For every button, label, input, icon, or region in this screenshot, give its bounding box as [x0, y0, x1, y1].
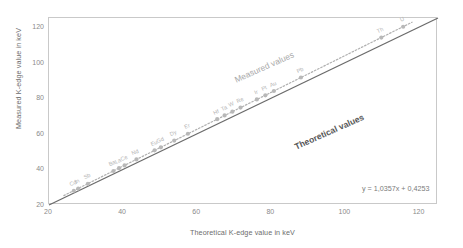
- chart-figure: Measured K-edge value in keV 20406080100…: [0, 0, 463, 248]
- data-point-Ta: [223, 113, 227, 117]
- data-point-Er: [186, 132, 190, 136]
- data-point-Cd: [72, 189, 76, 193]
- data-point-Eu: [152, 148, 156, 152]
- regression-equation-label: y = 1,0357x + 0,4253: [362, 184, 430, 193]
- data-point-Dy: [172, 138, 176, 142]
- plot-area: CdInSbBaLaCeNdEuGdDyErHfTaWReIrPtAuPbThU…: [48, 17, 437, 204]
- y-tick-80: 80: [18, 94, 44, 101]
- data-point-In: [76, 187, 80, 191]
- data-point-Sb: [86, 182, 90, 186]
- x-tick-80: 80: [255, 208, 285, 215]
- x-tick-60: 60: [181, 208, 211, 215]
- x-tick-100: 100: [329, 208, 359, 215]
- reference-line-group: [49, 18, 438, 205]
- data-point-Re: [238, 105, 242, 109]
- theoretical-identity-line: [49, 18, 438, 205]
- x-axis-tick-labels: 20406080100120: [0, 208, 463, 220]
- data-point-Hf: [215, 117, 219, 121]
- y-tick-40: 40: [18, 165, 44, 172]
- data-point-Nd: [134, 157, 138, 161]
- y-tick-120: 120: [18, 22, 44, 29]
- data-point-Ba: [111, 169, 115, 173]
- data-point-Gd: [159, 145, 163, 149]
- data-point-Au: [272, 89, 276, 93]
- measured-trendline: [64, 22, 412, 195]
- data-point-Ir: [255, 97, 259, 101]
- x-tick-20: 20: [33, 208, 63, 215]
- data-point-U: [401, 25, 405, 29]
- x-tick-120: 120: [403, 208, 433, 215]
- y-tick-20: 20: [18, 201, 44, 208]
- plot-svg: [49, 18, 438, 205]
- data-point-Pt: [263, 93, 267, 97]
- y-tick-60: 60: [18, 129, 44, 136]
- data-point-Ce: [122, 163, 126, 167]
- data-point-Pb: [299, 75, 303, 79]
- y-tick-100: 100: [18, 58, 44, 65]
- x-axis-title: Theoretical K-edge value in keV: [48, 228, 437, 237]
- x-tick-40: 40: [107, 208, 137, 215]
- data-point-Th: [379, 35, 383, 39]
- data-point-W: [230, 110, 234, 114]
- trendline-group: [64, 22, 412, 195]
- data-point-La: [117, 166, 121, 170]
